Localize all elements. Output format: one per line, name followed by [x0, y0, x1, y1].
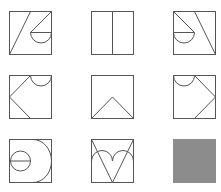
cell-r1-c3	[174, 12, 216, 55]
right-chevron	[195, 76, 216, 119]
large-right-semicircle	[33, 140, 52, 183]
cell-r2-c2	[92, 76, 134, 119]
top-semicircle	[174, 76, 195, 87]
cell-frame	[174, 76, 216, 119]
cell-r3-c2	[92, 140, 134, 183]
right-arch	[113, 151, 134, 162]
up-chevron	[92, 97, 134, 119]
slanted-line	[10, 12, 31, 55]
cell-r1-c2	[92, 12, 134, 55]
cell-frame	[10, 76, 52, 119]
lower-semicircle	[174, 33, 195, 44]
cell-r3-c1	[10, 140, 52, 183]
top-semicircle	[31, 76, 52, 86]
missing-answer-placeholder	[173, 139, 216, 183]
left-arch	[92, 151, 113, 162]
diagonal-line	[31, 12, 52, 33]
cell-r2-c3	[174, 76, 216, 119]
lower-semicircle	[31, 33, 52, 43]
cell-r2-c1	[10, 76, 52, 119]
slanted-line	[195, 12, 216, 55]
cell-r1-c1	[10, 12, 52, 55]
cell-r3-c3-missing	[173, 139, 216, 183]
diagonal-line	[174, 12, 195, 33]
puzzle-matrix	[0, 0, 221, 192]
left-chevron	[10, 76, 31, 119]
